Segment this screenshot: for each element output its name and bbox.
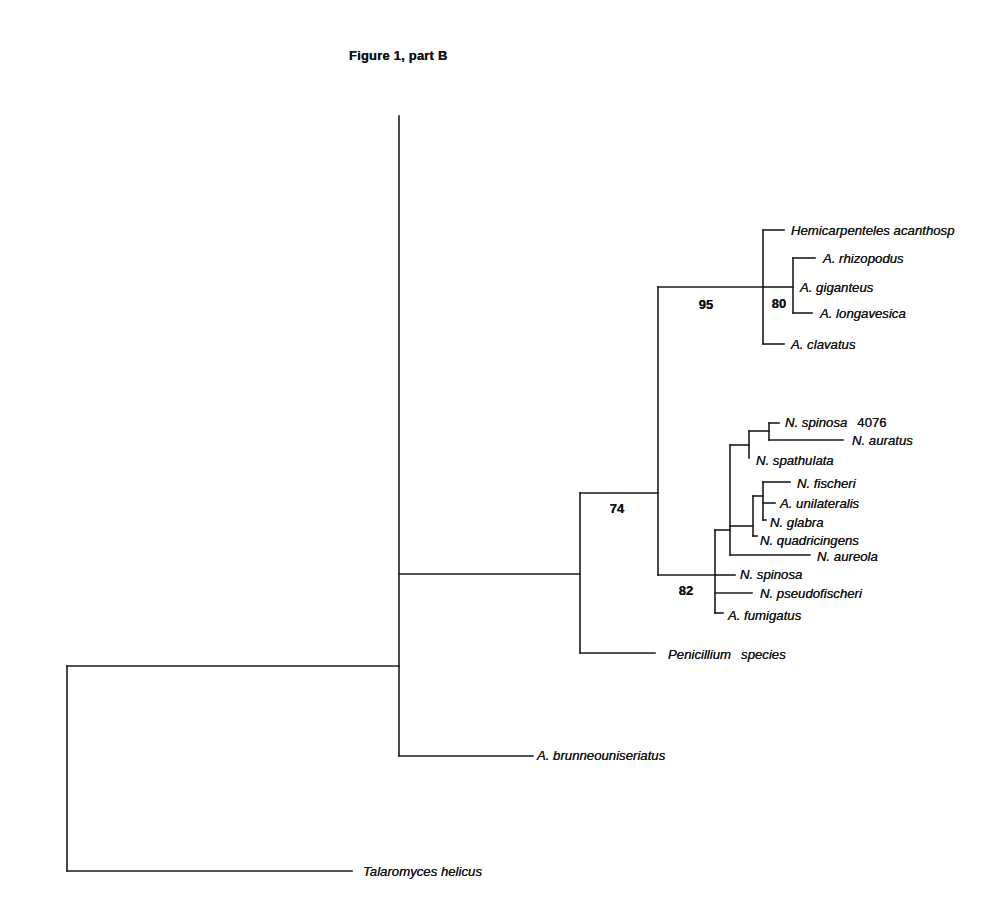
taxon-label-suffix: species: [741, 647, 786, 662]
taxon-label-suffix: 4076: [857, 415, 886, 430]
taxon-label-a-fumigatus: A. fumigatus: [727, 608, 802, 623]
bootstrap-value-80: 80: [772, 296, 786, 311]
taxon-label-a-longavesica: A. longavesica: [819, 306, 906, 321]
taxon-label-n-spinosa-4076: N. spinosa4076: [785, 415, 887, 430]
taxon-label-n-aureola: N. aureola: [817, 549, 878, 564]
bootstrap-value-82: 82: [679, 583, 693, 598]
bootstrap-value-74: 74: [610, 501, 625, 516]
phylogenetic-tree: Hemicarpenteles acanthospA. rhizopodusA.…: [0, 0, 1008, 919]
taxon-label-n-spathulata: N. spathulata: [756, 453, 834, 468]
bootstrap-value-95: 95: [699, 297, 713, 312]
taxon-label-talaromyces-helicus: Talaromyces helicus: [363, 864, 482, 879]
taxon-label-n-spinosa: N. spinosa: [740, 567, 802, 582]
taxon-label-a-clavatus: A. clavatus: [790, 337, 856, 352]
taxon-label-hemicarpenteles-acanthosp: Hemicarpenteles acanthosp: [791, 223, 954, 238]
taxon-label-a-unilateralis: A. unilateralis: [779, 496, 860, 511]
taxon-label-a-brunneouniseriatus: A. brunneouniseriatus: [536, 748, 666, 763]
taxon-label-a-giganteus: A. giganteus: [799, 280, 874, 295]
taxon-label-n-pseudofischeri: N. pseudofischeri: [760, 586, 863, 601]
taxon-label-n-glabra: N. glabra: [770, 515, 824, 530]
taxon-label-n-auratus: N. auratus: [852, 433, 913, 448]
taxon-label-penicillium-species: Penicilliumspecies: [668, 647, 786, 662]
scanned-figure-page: Figure 1, part B Hemicarpenteles acantho…: [0, 0, 1008, 919]
taxon-label-a-rhizopodus: A. rhizopodus: [822, 251, 904, 266]
taxon-label-n-quadricingens: N. quadricingens: [760, 533, 859, 548]
taxon-label-n-fischeri: N. fischeri: [797, 476, 857, 491]
